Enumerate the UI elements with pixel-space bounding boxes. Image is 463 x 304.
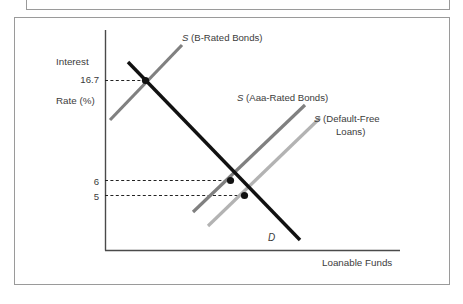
y-tick-label-5: 5 [59,191,99,204]
equilibrium-point-default-free [241,192,248,199]
y-tick-label-16-7: 16.7 [59,74,99,87]
y-axis-title-line2: Rate (%) [56,94,95,107]
supply-label-default-free-loans: S (Default-FreeLoans) [314,113,380,138]
demand-curve [128,62,300,240]
equilibrium-point-b-rated [142,77,149,84]
supply-label-b-rated-text: (B-Rated Bonds) [188,32,262,43]
supply-curve-aaa-rated-bonds [193,105,305,212]
supply-label-aaa-rated-bonds: S (Aaa-Rated Bonds) [237,92,328,105]
equilibrium-point-aaa-rated [227,177,234,184]
demand-label: D [268,232,275,245]
page-root: Interest Rate (%) 16.7 6 5 Loanable Fund… [0,0,463,304]
supply-label-aaa-text: (Aaa-Rated Bonds) [243,92,328,103]
supply-label-default-free-text: (Default-Free [320,113,379,124]
x-axis-title: Loanable Funds [322,257,392,270]
y-tick-label-6: 6 [59,176,99,189]
y-axis-title-line1: Interest [56,55,95,68]
supply-curve-default-free-loans [208,118,320,226]
supply-label-default-free-text-line2: Loans) [314,126,365,139]
supply-label-b-rated-bonds: S (B-Rated Bonds) [182,32,263,45]
